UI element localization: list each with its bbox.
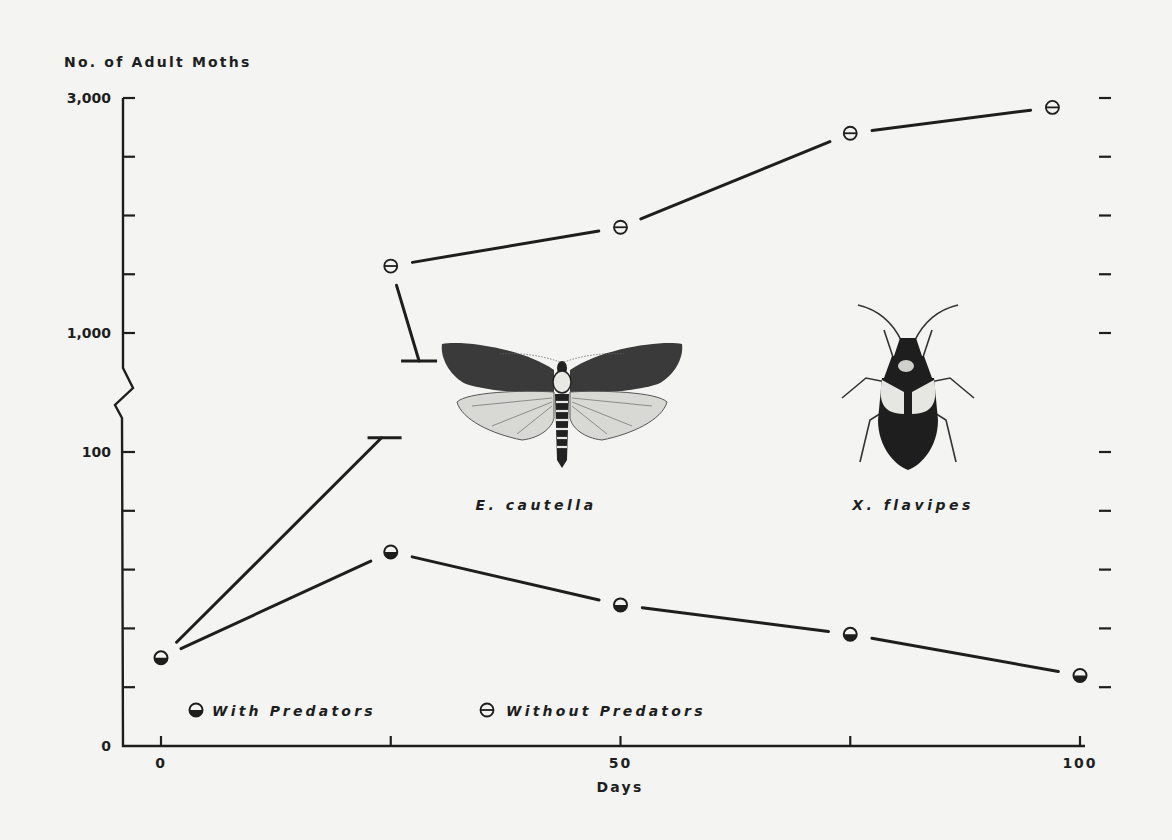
- with-predators-point: [155, 651, 168, 664]
- without-predators-line-segment: [872, 110, 1031, 130]
- moth-caption: E. cautella: [475, 497, 596, 513]
- x-axis-title: Days: [597, 779, 644, 795]
- without-predators-line-segment: [412, 231, 598, 262]
- y-axis-title: No. of Adult Moths: [64, 54, 251, 70]
- chart: No. of Adult Moths Days 01001,0003,00005…: [0, 0, 1172, 840]
- legend-half-filled-circle-icon: [190, 704, 203, 717]
- with-predators-line-segment: [872, 638, 1058, 671]
- y-tick-label: 100: [82, 444, 111, 460]
- x-tick-label: 100: [1062, 755, 1097, 771]
- with-predators-line-segment: [181, 561, 371, 648]
- without-predators-point: [1046, 101, 1059, 114]
- x-tick-label: 50: [609, 755, 632, 771]
- x-tick-label: 0: [155, 755, 167, 771]
- with-predators-point: [614, 598, 627, 611]
- with-predators-line-segment: [412, 557, 599, 600]
- legend-label-without-predators: Without Predators: [506, 703, 706, 719]
- legend-theta-circle-icon: [481, 704, 494, 717]
- without-predators-point: [844, 127, 857, 140]
- legend-label-with-predators: With Predators: [212, 703, 376, 719]
- without-predators-line-segment: [641, 142, 830, 219]
- legend-marker-without-predators: [481, 704, 494, 717]
- y-tick-label: 3,000: [67, 90, 112, 106]
- with-predators-point: [844, 628, 857, 641]
- predator-bug-illustration: [842, 305, 974, 470]
- legend: With Predators Without Predators: [190, 703, 706, 719]
- y-tick-label: 0: [101, 738, 111, 754]
- y-tick-label: 1,000: [67, 325, 112, 341]
- with-predators-point: [384, 545, 397, 558]
- without-predators-point: [384, 260, 397, 273]
- without-predators-line-segment: [177, 438, 382, 642]
- without-predators-point: [614, 221, 627, 234]
- bug-caption: X. flavipes: [851, 497, 974, 513]
- legend-marker-with-predators: [190, 704, 203, 717]
- with-predators-line-segment: [642, 608, 828, 632]
- with-predators-point: [1074, 669, 1087, 682]
- without-predators-line-segment: [396, 285, 419, 361]
- moth-illustration: [442, 343, 683, 468]
